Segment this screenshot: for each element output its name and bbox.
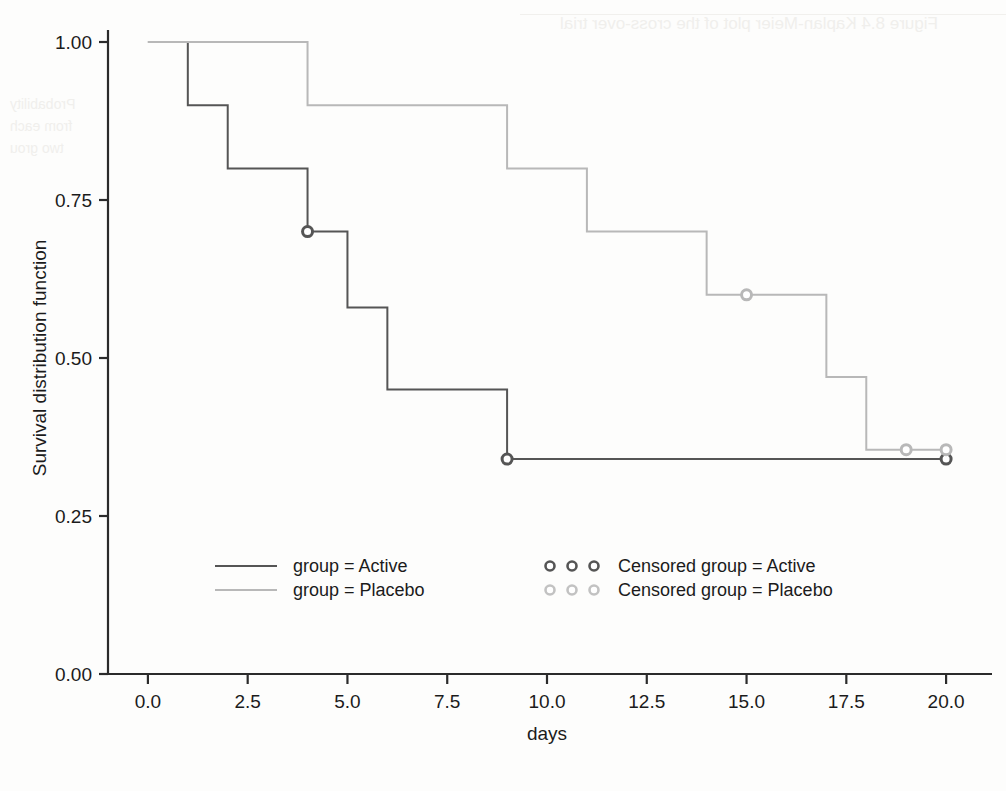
legend-item-label: group = Placebo — [293, 580, 425, 600]
y-axis-title: Survival distribution function — [29, 240, 50, 477]
legend-item: group = Active — [215, 556, 408, 576]
legend: group = ActiveCensored group = Activegro… — [215, 556, 833, 600]
x-tick-label: 0.0 — [135, 691, 161, 712]
y-tick-label: 1.00 — [55, 32, 92, 53]
x-tick-label: 17.5 — [828, 691, 865, 712]
x-tick-label: 15.0 — [728, 691, 765, 712]
censored-marker — [941, 445, 951, 455]
x-tick-label: 7.5 — [434, 691, 460, 712]
series-line — [148, 42, 946, 450]
legend-item: group = Placebo — [215, 580, 425, 600]
censored-marker — [742, 290, 752, 300]
censored-marker — [502, 454, 512, 464]
legend-circle-swatch — [546, 586, 555, 595]
legend-circle-swatch — [590, 562, 599, 571]
x-axis-title: days — [527, 723, 567, 744]
censored-marker — [901, 445, 911, 455]
censored-marker — [303, 227, 313, 237]
legend-item-label: group = Active — [293, 556, 408, 576]
x-tick-label: 2.5 — [234, 691, 260, 712]
legend-item-label: Censored group = Placebo — [618, 580, 833, 600]
legend-circle-swatch — [546, 562, 555, 571]
series-line — [148, 42, 946, 459]
censored-markers-layer — [303, 227, 952, 465]
y-tick-label: 0.50 — [55, 348, 92, 369]
legend-circle-swatch — [590, 586, 599, 595]
legend-item: Censored group = Placebo — [546, 580, 833, 600]
x-tick-label: 5.0 — [334, 691, 360, 712]
axes-layer — [99, 30, 992, 684]
legend-circle-swatch — [568, 586, 577, 595]
x-tick-label: 20.0 — [928, 691, 965, 712]
y-tick-label: 0.00 — [55, 664, 92, 685]
kaplan-meier-plot: 0.000.250.500.751.000.02.55.07.510.012.5… — [0, 0, 1006, 791]
bleed-rule — [520, 14, 1006, 15]
x-tick-label: 12.5 — [628, 691, 665, 712]
x-tick-label: 10.0 — [529, 691, 566, 712]
y-tick-label: 0.25 — [55, 506, 92, 527]
series-layer — [148, 42, 946, 459]
y-tick-label: 0.75 — [55, 190, 92, 211]
legend-item-label: Censored group = Active — [618, 556, 816, 576]
legend-item: Censored group = Active — [546, 556, 816, 576]
axis-labels-layer: 0.000.250.500.751.000.02.55.07.510.012.5… — [29, 32, 965, 744]
legend-circle-swatch — [568, 562, 577, 571]
figure-container: Figure 8.4 Kaplan-Meier plot of the cros… — [0, 0, 1006, 791]
